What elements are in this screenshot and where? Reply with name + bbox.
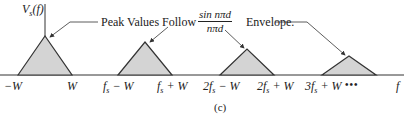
- x-axis-label: f: [396, 80, 399, 92]
- fraction-numerator: sin nπd: [198, 9, 232, 22]
- tick-label-fs-minus-w: fs − W: [103, 80, 134, 92]
- annotation-suffix: Envelope.: [246, 16, 294, 28]
- figure-caption: (c): [214, 102, 226, 113]
- leader-line-1: [150, 27, 168, 42]
- spectrum-triangle-0: [18, 36, 72, 75]
- tick-post: + W: [269, 79, 293, 93]
- annotation-prefix: Peak Values Follow: [101, 16, 196, 28]
- fraction-denominator: nπd: [198, 22, 232, 34]
- tick-label-fs-plus-w: fs + W: [157, 80, 188, 92]
- tick-label-3fs-plus-w: 3fs + W: [305, 80, 342, 92]
- envelope-fraction: sin nπd nπd: [198, 9, 232, 34]
- tick-pre: 3f: [305, 79, 314, 93]
- tick-label-w: W: [67, 80, 77, 92]
- tick-label-2fs-minus-w: 2fs − W: [203, 80, 240, 92]
- y-label-arg: (f): [32, 2, 43, 16]
- tick-label-2fs-plus-w: 2fs + W: [257, 80, 294, 92]
- leader-line-0: [50, 22, 98, 37]
- spectrum-triangle-1: [118, 42, 172, 75]
- tick-post: + W: [163, 79, 187, 93]
- spectrum-triangle-3: [322, 56, 376, 75]
- tick-pre: 2f: [257, 79, 266, 93]
- tick-label-neg-w: −W: [4, 80, 22, 92]
- tick-post: − W: [109, 79, 133, 93]
- spectrum-diagram: Vs(f) Peak Values Follow sin nπd nπd Env…: [0, 0, 408, 116]
- tick-post: + W: [317, 79, 341, 93]
- tick-pre: 2f: [203, 79, 212, 93]
- tick-post: − W: [215, 79, 239, 93]
- spectrum-triangle-2: [220, 49, 274, 75]
- y-axis-label: Vs(f): [22, 3, 44, 15]
- ellipsis: •••: [345, 80, 359, 90]
